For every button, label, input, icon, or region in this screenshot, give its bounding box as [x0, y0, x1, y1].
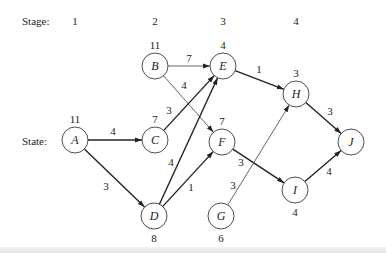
node-value: 3 — [293, 67, 299, 79]
node-label: F — [217, 135, 226, 149]
bottom-divider — [0, 247, 386, 253]
node-label: H — [291, 87, 302, 101]
node-h: H3 — [283, 67, 309, 107]
edge-g-h — [228, 105, 289, 205]
edge-weight: 4 — [326, 165, 332, 177]
node-value: 6 — [218, 232, 224, 244]
edge-weight: 1 — [256, 63, 262, 75]
edge-a-d — [84, 149, 144, 207]
node-label: E — [218, 59, 227, 73]
edge-weight: 4 — [110, 125, 116, 137]
node-label: B — [151, 59, 159, 73]
node-f: F7 — [209, 115, 235, 155]
edge-weight: 1 — [188, 181, 194, 193]
edge-weight: 4 — [181, 79, 187, 91]
stage-label: Stage: — [22, 15, 50, 27]
edge-weight: 4 — [168, 156, 174, 168]
node-value: 7 — [152, 113, 158, 125]
node-b: B11 — [142, 39, 168, 79]
edge-weight: 3 — [166, 104, 172, 116]
node-j: J — [338, 129, 364, 155]
node-label: C — [151, 133, 160, 147]
node-d: D8 — [141, 203, 167, 244]
edge-weight: 3 — [230, 179, 236, 191]
node-c: C7 — [142, 113, 168, 153]
node-value: 8 — [151, 232, 157, 244]
node-value: 7 — [219, 115, 225, 127]
node-value: 11 — [150, 39, 161, 51]
nodes: A11B11C7D8E4F7G6H3I4J — [62, 39, 364, 244]
node-value: 4 — [292, 206, 298, 218]
node-value: 11 — [70, 113, 81, 125]
stage-number: 1 — [72, 15, 78, 27]
node-value: 4 — [220, 39, 226, 51]
node-label: A — [70, 133, 79, 147]
node-label: G — [217, 209, 226, 223]
edge-i-j — [305, 151, 341, 182]
node-label: J — [348, 135, 354, 149]
node-i: I4 — [282, 177, 308, 218]
stage-header: Stage: State: 1234 — [22, 15, 299, 147]
node-a: A11 — [62, 113, 88, 153]
edge-weight: 7 — [186, 52, 192, 64]
node-label: D — [149, 209, 159, 223]
stage-number: 3 — [220, 15, 226, 27]
state-label: State: — [22, 135, 47, 147]
edge-weight: 3 — [238, 156, 244, 168]
stage-number: 2 — [152, 15, 158, 27]
stage-number: 4 — [293, 15, 299, 27]
network-diagram: Stage: State: 1234 437434113334 A11B11C7… — [0, 0, 386, 253]
node-e: E4 — [210, 39, 236, 79]
edge-h-j — [306, 103, 341, 134]
node-g: G6 — [208, 203, 234, 244]
edge-weight: 3 — [103, 180, 109, 192]
edge-weight: 3 — [327, 105, 333, 117]
